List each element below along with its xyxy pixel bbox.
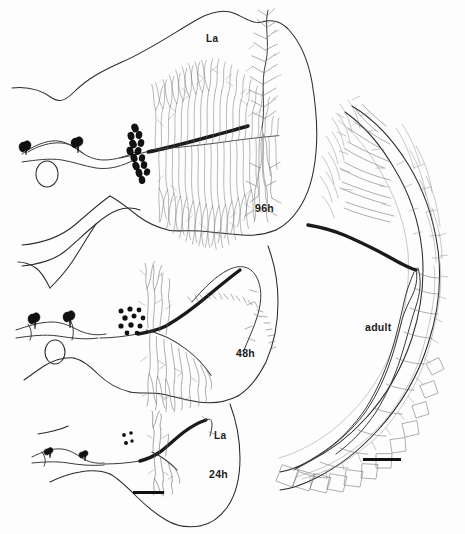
stage-label-24h: 24h (209, 468, 228, 480)
neuron-48h (16, 262, 276, 412)
region-label-la-96h: La (206, 33, 218, 44)
neuron-adult (276, 96, 448, 493)
figure-drawing: .out{fill:none;stroke:#2b2b2b;stroke-wid… (0, 0, 465, 534)
stage-label-adult: adult (365, 321, 392, 333)
neuron-96h (19, 8, 281, 249)
panel-24h-outline (38, 404, 240, 527)
boutons-48h (118, 306, 145, 335)
region-label-la-24h: La (214, 430, 226, 441)
boutons-24h (122, 431, 134, 445)
stage-label-96h: 96h (255, 202, 274, 214)
scalebar-adult (363, 458, 401, 461)
panel-adult-outline (279, 106, 440, 490)
figure-canvas: .out{fill:none;stroke:#2b2b2b;stroke-wid… (0, 0, 465, 534)
scalebar-larval (133, 491, 164, 494)
stage-label-48h: 48h (236, 347, 255, 359)
